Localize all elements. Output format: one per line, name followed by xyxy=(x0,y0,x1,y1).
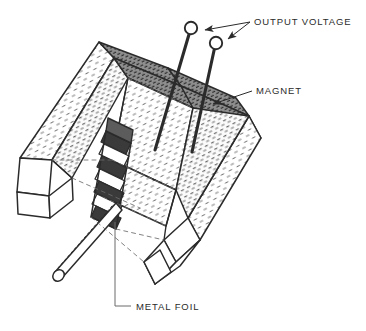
probe-rod xyxy=(50,203,122,284)
magnet-label: MAGNET xyxy=(256,85,302,96)
magnet-yoke xyxy=(17,22,261,284)
output-voltage-label: OUTPUT VOLTAGE xyxy=(254,16,352,27)
metal-foil-label: METAL FOIL xyxy=(136,301,199,312)
output-terminal-2 xyxy=(210,37,222,49)
figure-container: OUTPUT VOLTAGE MAGNET METAL FOIL xyxy=(0,0,366,331)
metal-foil-leader xyxy=(115,222,131,306)
output-terminal-1 xyxy=(185,22,197,34)
output-voltage-leader xyxy=(205,22,250,39)
diagram-svg: OUTPUT VOLTAGE MAGNET METAL FOIL xyxy=(0,0,366,331)
